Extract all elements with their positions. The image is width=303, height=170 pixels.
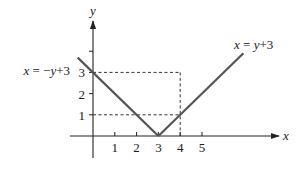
y-tick-label-1: 1 <box>79 108 86 123</box>
series-layer <box>78 53 244 136</box>
x-tick-label-4: 4 <box>177 140 184 155</box>
y-tick-label-3: 3 <box>79 65 86 80</box>
x-tick-label-1: 1 <box>112 140 119 155</box>
chart: 12345123xyx = −y+3x = y+3 <box>0 0 303 170</box>
series-line-1 <box>158 53 243 136</box>
x-tick-label-3: 3 <box>155 140 162 155</box>
equation-label-right: x = y+3 <box>233 37 273 52</box>
series-line-0 <box>78 58 159 136</box>
x-tick-label-5: 5 <box>199 140 206 155</box>
y-tick-label-2: 2 <box>79 87 86 102</box>
x-tick-label-2: 2 <box>133 140 140 155</box>
equation-label-left: x = −y+3 <box>22 63 70 78</box>
x-axis-label: x <box>282 128 289 143</box>
y-axis-label: y <box>88 3 96 18</box>
